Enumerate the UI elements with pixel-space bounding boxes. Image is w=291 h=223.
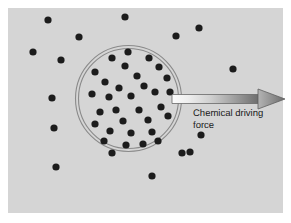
particle-dot <box>48 94 55 101</box>
particle-dot <box>154 137 161 144</box>
particle-dot <box>127 92 134 99</box>
particle-dot <box>195 24 202 31</box>
particle-dot <box>119 117 126 124</box>
particle-dot <box>52 163 59 170</box>
particle-dot <box>163 74 170 81</box>
particle-dot <box>100 137 107 144</box>
particle-dot <box>155 63 162 70</box>
particle-dot <box>178 149 185 156</box>
particle-dot <box>164 112 171 119</box>
particle-dot <box>50 124 57 131</box>
particle-dot <box>75 33 82 40</box>
particles-inside-boundary <box>88 48 173 148</box>
particle-dot <box>115 84 122 91</box>
particle-dot <box>57 56 64 63</box>
particle-dot <box>144 116 151 123</box>
particle-dot <box>44 16 51 23</box>
particle-dot <box>133 72 140 79</box>
particle-dot <box>172 32 179 39</box>
particle-dot <box>127 129 134 136</box>
particle-dot <box>101 78 108 85</box>
particle-dot <box>96 108 103 115</box>
particle-dot <box>88 90 95 97</box>
particle-dot <box>108 54 115 61</box>
particle-dot <box>186 148 193 155</box>
particle-dot <box>91 120 98 127</box>
arrow-label: Chemical driving force <box>193 108 263 131</box>
arrow-head-icon <box>258 89 285 109</box>
particle-dot <box>122 141 129 148</box>
particle-dot <box>105 93 112 100</box>
particle-dot <box>148 128 155 135</box>
chemical-driving-force-arrow <box>172 89 285 109</box>
arrow-shaft <box>172 95 258 104</box>
particle-dot <box>140 82 147 89</box>
particle-dot <box>151 88 158 95</box>
particle-dot <box>108 149 115 156</box>
particle-dot <box>112 106 119 113</box>
particle-dot <box>124 48 131 55</box>
particle-dot <box>229 65 236 72</box>
diffusion-figure: Chemical driving force <box>0 0 291 223</box>
particle-dot <box>139 140 146 147</box>
particle-dot <box>29 48 36 55</box>
particle-dot <box>121 62 128 69</box>
particle-dot <box>106 127 113 134</box>
particle-dot <box>91 68 98 75</box>
particle-dot <box>135 106 142 113</box>
particle-dot <box>145 54 152 61</box>
particle-dot <box>197 131 204 138</box>
particle-dot <box>121 13 128 20</box>
particle-dot <box>157 103 164 110</box>
particle-dot <box>148 172 155 179</box>
